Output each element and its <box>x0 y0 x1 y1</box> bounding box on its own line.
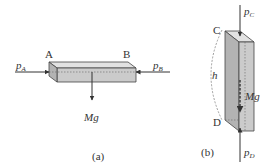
label-pc: pC <box>243 5 255 19</box>
caption-b: (b) <box>201 146 214 159</box>
caption-a: (a) <box>92 150 105 163</box>
label-pb: pB <box>152 59 164 73</box>
diagram-canvas: A B pA pB Mg (a) C D h pC pD Mg (b) <box>0 0 275 168</box>
label-mg-a: Mg <box>83 111 99 123</box>
label-b: B <box>123 48 130 60</box>
figure-b: C D h pC pD Mg (b) <box>201 5 260 162</box>
label-d: D <box>213 116 221 128</box>
label-mg-b: Mg <box>244 90 260 102</box>
figure-a: A B pA pB Mg (a) <box>15 48 170 163</box>
label-pd: pD <box>243 146 255 160</box>
label-pa: pA <box>15 59 27 73</box>
label-a: A <box>45 48 53 60</box>
label-h: h <box>212 69 218 81</box>
label-c: C <box>213 24 220 36</box>
